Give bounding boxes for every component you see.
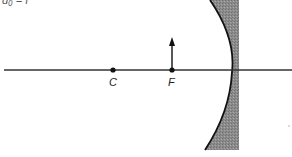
- object-distance-label: d₀ = f: [2, 0, 28, 6]
- label-c: C: [109, 76, 117, 88]
- center-of-curvature-point: [110, 67, 115, 72]
- speck: [288, 125, 290, 127]
- diagram-canvas: [0, 0, 292, 157]
- object-arrow-head-icon: [169, 37, 175, 46]
- label-f: F: [168, 76, 175, 88]
- ray-diagram: d₀ = f C F: [0, 0, 292, 157]
